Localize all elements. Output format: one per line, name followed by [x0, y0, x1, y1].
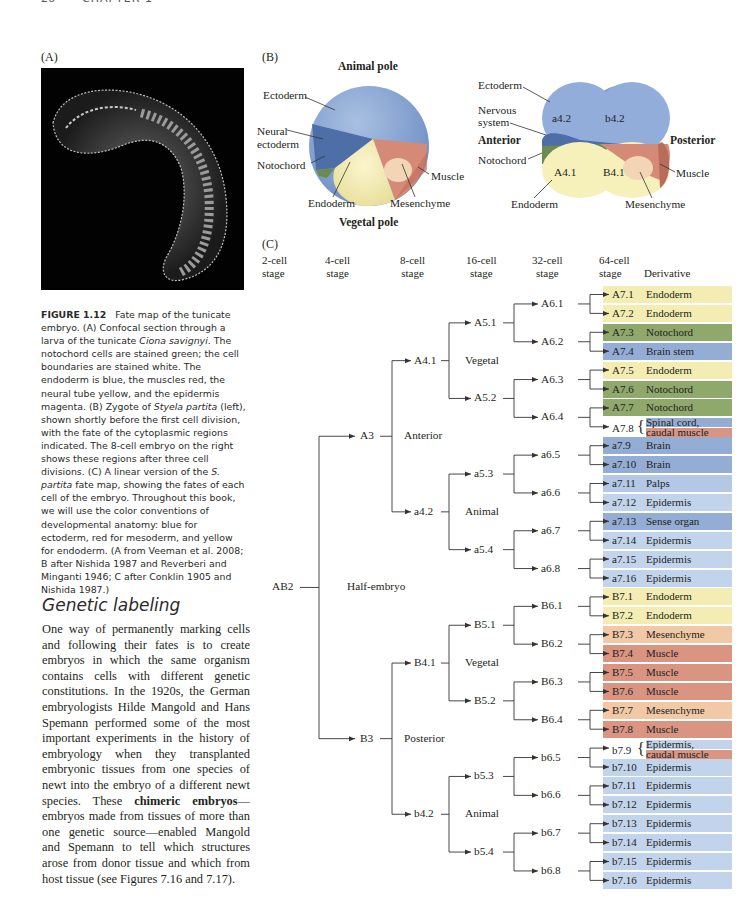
- lineage-node: a6.6: [541, 486, 560, 498]
- lineage-node: Half-embryo: [347, 580, 405, 592]
- lineage-node: A3: [360, 429, 374, 441]
- lineage-node: A6.4: [541, 410, 563, 422]
- lineage-node: b6.5: [541, 751, 561, 763]
- lineage-node: a4.2: [414, 505, 433, 517]
- lineage-node: Animal: [465, 807, 499, 819]
- lineage-node: a5.3: [474, 467, 493, 479]
- lineage-tree: [0, 0, 749, 904]
- lineage-node: Vegetal: [465, 354, 499, 366]
- lineage-node: Vegetal: [465, 656, 499, 668]
- lineage-node: A6.2: [541, 335, 563, 347]
- lineage-node: a6.5: [541, 448, 560, 460]
- lineage-node: a6.8: [541, 562, 560, 574]
- lineage-node: B6.1: [541, 599, 563, 611]
- lineage-node: b6.8: [541, 864, 561, 876]
- lineage-node: B5.1: [474, 618, 496, 630]
- lineage-node: B3: [360, 732, 373, 744]
- lineage-node: B6.3: [541, 675, 563, 687]
- lineage-node: Posterior: [404, 732, 445, 744]
- lineage-node: Anterior: [404, 429, 442, 441]
- lineage-node: Animal: [465, 505, 499, 517]
- lineage-node: b5.3: [474, 769, 494, 781]
- lineage-node: A6.3: [541, 373, 563, 385]
- lineage-node: B6.2: [541, 637, 563, 649]
- lineage-node: a6.7: [541, 524, 560, 536]
- lineage-node: A4.1: [414, 354, 436, 366]
- lineage-node: b5.4: [474, 845, 494, 857]
- lineage-node: a5.4: [474, 543, 493, 555]
- lineage-node: b6.6: [541, 788, 561, 800]
- lineage-node: B6.4: [541, 713, 563, 725]
- lineage-node: AB2: [272, 580, 293, 592]
- lineage-node: A5.2: [474, 391, 496, 403]
- lineage-node: b6.7: [541, 826, 561, 838]
- lineage-node: B5.2: [474, 694, 496, 706]
- lineage-node: A6.1: [541, 297, 563, 309]
- lineage-node: b4.2: [414, 807, 434, 819]
- lineage-node: B4.1: [414, 656, 436, 668]
- lineage-node: A5.1: [474, 316, 496, 328]
